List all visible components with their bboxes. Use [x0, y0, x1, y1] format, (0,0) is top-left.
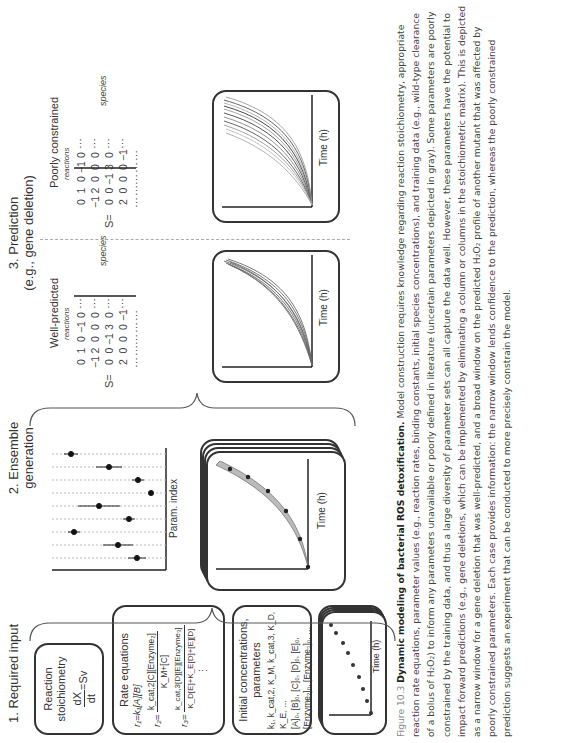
training-xlabel: Time (h): [371, 640, 381, 673]
header-ensemble-line1: 2. Ensemble: [6, 398, 21, 518]
well-predicted-chart-box: Time (h): [212, 250, 340, 383]
bracket-required-to-ensemble: [20, 603, 400, 643]
header-prediction: 3. Prediction (e.g., gene deletion): [6, 143, 36, 323]
species-label: species: [98, 75, 108, 106]
stoichiometry-title-2: stoichiometry: [55, 645, 68, 733]
r2-denominator: K_M+[C]: [158, 631, 170, 712]
matrix-prefix: S=: [103, 374, 115, 388]
bracket-ensemble-to-prediction: [20, 388, 360, 428]
header-prediction-line2: (e.g., gene deletion): [21, 143, 36, 323]
caption-body: Model construction requires knowledge re…: [395, 6, 512, 737]
param-range-panel: Param. index: [48, 443, 188, 588]
poorly-constrained-title: Poorly constrained: [48, 58, 61, 188]
header-required-input: 1. Required input: [6, 624, 21, 723]
eq-numerator: dX: [71, 690, 85, 707]
ensemble-chart: [208, 453, 328, 589]
stoichiometry-box: Reaction stoichiometry dXdt=Sv: [34, 643, 104, 735]
ensemble-xlabel: Time (h): [316, 492, 327, 529]
r3-lhs: r₃=: [178, 715, 189, 727]
prediction-divider: [40, 239, 350, 240]
caption-label: Figure 10.3: [395, 686, 406, 737]
well-predicted-title: Well-predicted: [48, 218, 61, 348]
ensemble-panel: Time (h): [200, 433, 350, 593]
param-xlabel: Param. index: [168, 479, 179, 538]
well-predicted-xlabel: Time (h): [318, 289, 329, 326]
figure-rotated: 1. Required input 2. Ensemble generation…: [0, 0, 571, 743]
eq-denominator: dt: [85, 690, 98, 707]
ensemble-box: Time (h): [206, 451, 346, 591]
well-predicted-chart: [214, 251, 324, 381]
well-predicted-panel: Well-predicted S= reactions species 010−…: [48, 218, 208, 388]
r2-lhs: r₂=: [151, 715, 162, 727]
reactions-label: reactions: [62, 148, 71, 180]
poorly-constrained-xlabel: Time (h): [318, 129, 329, 166]
deleted-column-line: [74, 108, 144, 208]
matrix-prefix: S=: [103, 214, 115, 228]
eq-rhs: =Sv: [77, 671, 89, 690]
header-prediction-line1: 3. Prediction: [6, 143, 21, 323]
poorly-constrained-chart: [214, 91, 324, 221]
reactions-label: reactions: [62, 308, 71, 340]
r2-numerator: k_cat,2[C][Enzyme₂]: [145, 631, 158, 712]
poorly-constrained-panel: Poorly constrained S= reactions species …: [48, 58, 208, 228]
poorly-constrained-chart-box: Time (h): [212, 90, 340, 223]
species-label: species: [98, 235, 108, 266]
figure-caption: Figure 10.3 Dynamic modeling of bacteria…: [393, 2, 515, 737]
stoichiometry-title-1: Reaction: [42, 645, 55, 733]
deleted-column-line: [74, 268, 144, 368]
caption-title: Dynamic modeling of bacterial ROS detoxi…: [395, 421, 406, 682]
stoichiometry-equation: dXdt=Sv: [71, 645, 98, 733]
param-range-chart: [48, 443, 178, 588]
